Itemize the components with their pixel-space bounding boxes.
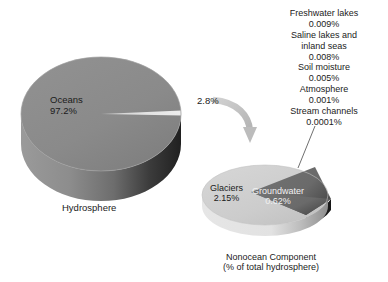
figure-canvas: Oceans 97.2% 2.8% Hydrosphere Glaciers 2…	[0, 0, 388, 282]
minor-line-2: Saline lakes and	[262, 30, 386, 41]
minor-line-1: 0.009%	[262, 19, 386, 30]
small-pie-groundwater-label: Groundwater 0.62%	[252, 186, 304, 206]
minor-line-3: inland seas	[262, 41, 386, 52]
main-pie-nonocean-value: 2.8%	[197, 96, 219, 107]
minor-line-0: Freshwater lakes	[262, 8, 386, 19]
groundwater-value: 0.62%	[265, 196, 291, 206]
minor-line-4: 0.008%	[262, 52, 386, 63]
main-pie-hydrosphere	[21, 57, 182, 201]
oceans-name: Oceans	[50, 94, 83, 105]
glaciers-name: Glaciers	[210, 183, 243, 193]
minor-line-10: 0.0001%	[262, 117, 386, 128]
minor-components-list: Freshwater lakes 0.009% Saline lakes and…	[262, 8, 386, 128]
expansion-arrow-head	[243, 127, 257, 143]
small-pie-caption-line2: (% of total hydrosphere)	[223, 262, 319, 272]
minor-line-8: 0.001%	[262, 95, 386, 106]
groundwater-name: Groundwater	[252, 186, 304, 196]
small-pie-caption: Nonocean Component (% of total hydrosphe…	[197, 252, 345, 272]
small-pie-caption-line1: Nonocean Component	[226, 252, 316, 262]
oceans-value: 97.2%	[50, 106, 83, 117]
minor-line-7: Atmosphere	[262, 84, 386, 95]
minor-line-6: 0.005%	[262, 73, 386, 84]
leader-line-stream-channels	[298, 126, 315, 168]
main-pie-caption: Hydrosphere	[62, 203, 116, 214]
glaciers-value: 2.15%	[214, 193, 240, 203]
expansion-arrow	[213, 100, 257, 143]
minor-line-5: Soil moisture	[262, 62, 386, 73]
main-pie-oceans-label: Oceans 97.2%	[50, 95, 83, 116]
small-pie-glaciers-label: Glaciers 2.15%	[210, 183, 243, 203]
minor-line-9: Stream channels	[262, 106, 386, 117]
